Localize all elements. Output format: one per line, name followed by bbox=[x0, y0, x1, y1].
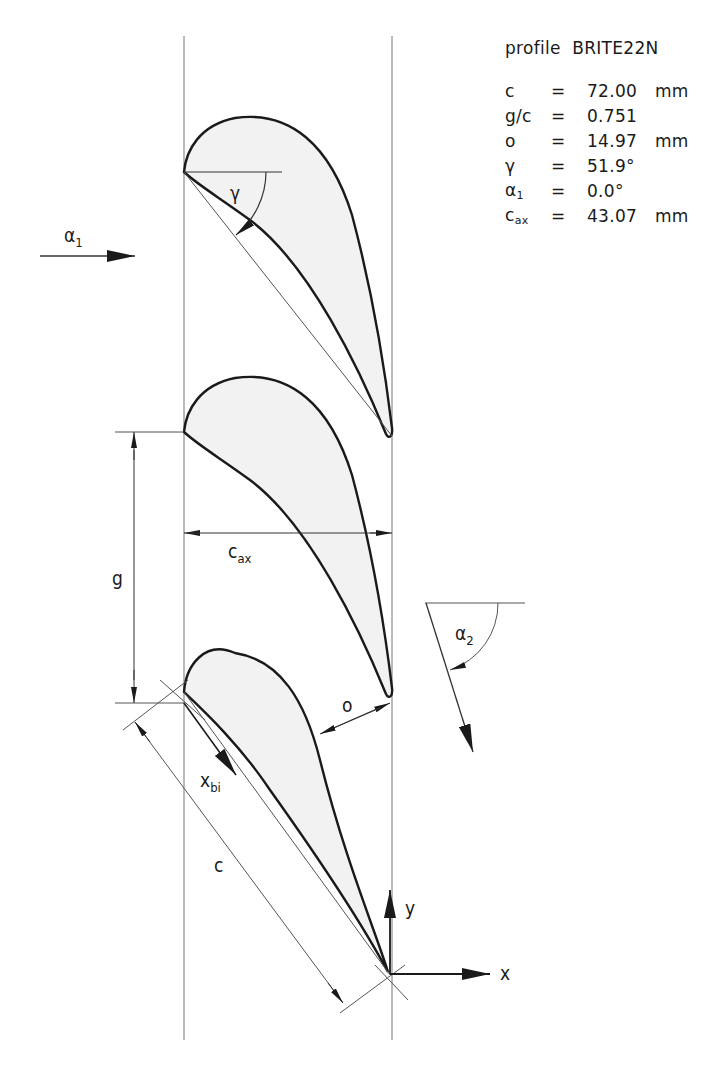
profile-title: profile BRITE22N bbox=[505, 38, 689, 58]
param-symbol: γ bbox=[505, 156, 515, 176]
param-value: 51.9° bbox=[587, 153, 647, 178]
param-symbol: c bbox=[505, 205, 515, 225]
throat-label: o bbox=[342, 694, 352, 716]
param-unit bbox=[647, 153, 689, 178]
y-axis-label: y bbox=[405, 897, 415, 919]
gamma-label: γ bbox=[230, 182, 240, 204]
alpha1-label: α1 bbox=[64, 224, 83, 250]
param-symbol: o bbox=[505, 131, 516, 151]
blade-bottom bbox=[184, 649, 388, 972]
param-eq: = bbox=[551, 203, 587, 228]
x-axis-label: x bbox=[500, 962, 510, 984]
profile-parameters: c = 72.00 mm g/c = 0.751 o = 14.97 mm γ … bbox=[505, 78, 689, 228]
param-row: cax = 43.07 mm bbox=[505, 203, 689, 228]
param-subscript: ax bbox=[515, 214, 529, 227]
chord-label: c bbox=[214, 854, 223, 876]
param-value: 14.97 bbox=[587, 128, 647, 153]
param-symbol: α bbox=[505, 180, 517, 200]
alpha2-label: α2 bbox=[455, 622, 474, 648]
chord-arrow-top bbox=[135, 722, 150, 742]
profile-info-panel: profile BRITE22N c = 72.00 mm g/c = 0.75… bbox=[505, 38, 689, 228]
param-symbol: c bbox=[505, 81, 515, 101]
param-unit: mm bbox=[647, 78, 689, 103]
param-unit: mm bbox=[647, 203, 689, 228]
chord-arrow-bottom bbox=[328, 983, 343, 1003]
param-eq: = bbox=[551, 178, 587, 203]
xbi-label: xbi bbox=[200, 769, 221, 795]
axial-chord-label: cax bbox=[228, 540, 252, 566]
param-row: o = 14.97 mm bbox=[505, 128, 689, 153]
param-unit bbox=[647, 178, 689, 203]
chord-ext-te bbox=[340, 965, 405, 1013]
param-value: 43.07 bbox=[587, 203, 647, 228]
profile-name: BRITE22N bbox=[572, 38, 658, 58]
param-eq: = bbox=[551, 153, 587, 178]
chord-ext-le bbox=[123, 680, 188, 730]
param-eq: = bbox=[551, 128, 587, 153]
param-value: 0.751 bbox=[587, 103, 647, 128]
param-value: 72.00 bbox=[587, 78, 647, 103]
param-row: γ = 51.9° bbox=[505, 153, 689, 178]
param-row: α1 = 0.0° bbox=[505, 178, 689, 203]
param-symbol: g/c bbox=[505, 106, 532, 126]
param-row: c = 72.00 mm bbox=[505, 78, 689, 103]
param-eq: = bbox=[551, 78, 587, 103]
param-eq: = bbox=[551, 103, 587, 128]
param-value: 0.0° bbox=[587, 178, 647, 203]
param-row: g/c = 0.751 bbox=[505, 103, 689, 128]
param-unit bbox=[647, 103, 689, 128]
param-unit: mm bbox=[647, 128, 689, 153]
profile-title-prefix: profile bbox=[505, 38, 561, 58]
param-subscript: 1 bbox=[517, 189, 524, 202]
pitch-label: g bbox=[112, 567, 123, 589]
